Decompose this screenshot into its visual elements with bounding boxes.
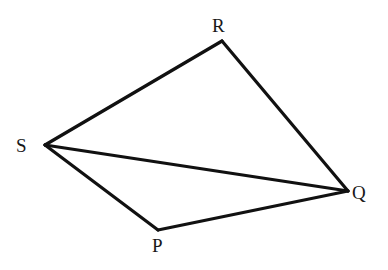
vertex-label-p: P (152, 236, 163, 255)
figure-background (0, 0, 388, 270)
vertex-label-s: S (16, 136, 27, 155)
geometry-figure: R S Q P (0, 0, 388, 270)
figure-canvas (0, 0, 388, 270)
vertex-label-q: Q (352, 183, 366, 202)
vertex-label-r: R (212, 16, 225, 35)
